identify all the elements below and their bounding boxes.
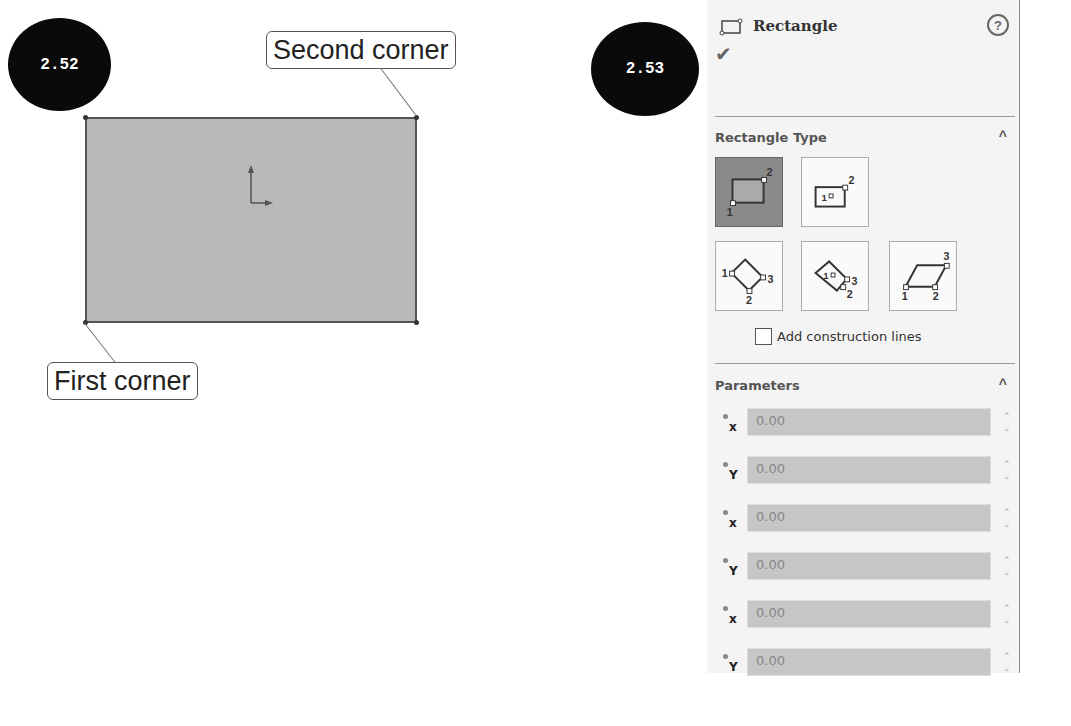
svg-text:2: 2 [746, 294, 752, 306]
divider [715, 116, 1015, 117]
spinner-icon[interactable]: ⌃⌄ [1001, 602, 1013, 626]
panel-title: Rectangle [753, 17, 837, 35]
corner-point [83, 115, 88, 120]
svg-text:3: 3 [852, 275, 858, 287]
spinner-icon[interactable]: ⌃⌄ [1001, 458, 1013, 482]
type-center-rectangle-button[interactable]: 12 [801, 157, 869, 227]
param-input[interactable]: 0.00 [747, 552, 991, 580]
point-y-icon: Y [723, 652, 743, 676]
point-x-icon: x [723, 604, 743, 628]
svg-text:3: 3 [943, 250, 949, 262]
param-input[interactable]: 0.00 [747, 600, 991, 628]
svg-text:1: 1 [722, 267, 728, 279]
svg-text:1: 1 [902, 290, 908, 302]
rectangle-tool-icon [719, 16, 745, 36]
callout-second-corner: Second corner [266, 31, 456, 69]
type-corner-rectangle-button[interactable]: 12 [715, 157, 783, 227]
svg-text:1: 1 [823, 270, 829, 281]
add-construction-lines-label: Add construction lines [777, 329, 922, 344]
panel-header: Rectangle [719, 16, 837, 36]
collapse-caret-icon[interactable]: ^ [999, 376, 1007, 392]
callout-first-corner: First corner [47, 362, 198, 400]
spinner-icon[interactable]: ⌃⌄ [1001, 554, 1013, 578]
point-x-icon: x [723, 412, 743, 436]
leader-first [84, 323, 116, 363]
add-construction-lines-checkbox[interactable] [755, 328, 772, 345]
svg-text:1: 1 [727, 206, 733, 218]
spinner-icon[interactable]: ⌃⌄ [1001, 650, 1013, 674]
param-input[interactable]: 0.00 [747, 456, 991, 484]
type-3-point-corner-button[interactable]: 132 [715, 241, 783, 311]
svg-text:2: 2 [766, 166, 772, 178]
param-input[interactable]: 0.00 [747, 408, 991, 436]
svg-text:2: 2 [847, 288, 853, 300]
point-y-icon: Y [723, 460, 743, 484]
svg-text:2: 2 [849, 174, 855, 186]
sketch-rectangle [85, 117, 417, 323]
collapse-caret-icon[interactable]: ^ [999, 128, 1007, 144]
ok-check-icon[interactable]: ✔ [715, 42, 732, 66]
point-y-icon: Y [723, 556, 743, 580]
point-x-icon: x [723, 508, 743, 532]
leader-second [380, 68, 416, 115]
svg-text:2: 2 [933, 290, 939, 302]
origin-icon [245, 163, 275, 223]
section-title-parameters: Parameters [715, 378, 800, 393]
spinner-icon[interactable]: ⌃⌄ [1001, 410, 1013, 434]
add-construction-lines-option[interactable]: Add construction lines [755, 328, 922, 345]
type-3-point-center-button[interactable]: 132 [801, 241, 869, 311]
figure-badge-2-53: 2.53 [591, 22, 699, 116]
param-row-y1: Y 0.00 ⌃⌄ [715, 456, 1015, 486]
svg-text:3: 3 [767, 273, 773, 285]
type-parallelogram-button[interactable]: 123 [889, 241, 957, 311]
param-row-y2: Y 0.00 ⌃⌄ [715, 552, 1015, 582]
section-title-rectangle-type: Rectangle Type [715, 130, 827, 145]
corner-point [414, 115, 419, 120]
param-input[interactable]: 0.00 [747, 648, 991, 676]
corner-point [414, 320, 419, 325]
figure-badge-2-52: 2.52 [8, 18, 111, 111]
svg-text:1: 1 [821, 192, 827, 203]
param-row-x2: x 0.00 ⌃⌄ [715, 504, 1015, 534]
param-input[interactable]: 0.00 [747, 504, 991, 532]
rectangle-property-manager: Rectangle ? ✔ Rectangle Type ^ 12 12 132… [707, 0, 1020, 673]
param-row-x3: x 0.00 ⌃⌄ [715, 600, 1015, 630]
param-row-x1: x 0.00 ⌃⌄ [715, 408, 1015, 438]
divider [715, 363, 1015, 364]
help-icon[interactable]: ? [987, 14, 1009, 36]
spinner-icon[interactable]: ⌃⌄ [1001, 506, 1013, 530]
param-row-y3: Y 0.00 ⌃⌄ [715, 648, 1015, 678]
